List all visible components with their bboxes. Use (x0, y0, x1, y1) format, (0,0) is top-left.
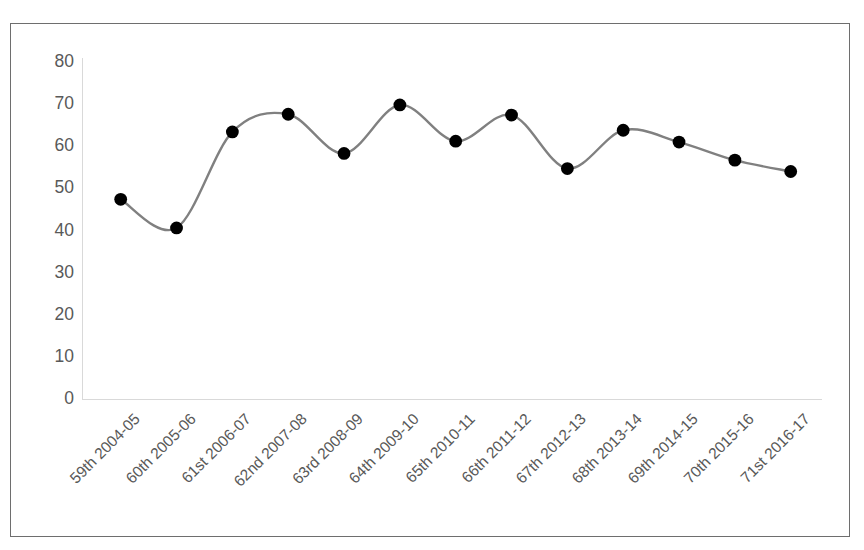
chart-plot-area: 01020304050607080 59th 2004-0560th 2005-… (0, 0, 864, 550)
x-axis-tick-labels: 59th 2004-0560th 2005-0661st 2006-0762nd… (0, 0, 864, 550)
